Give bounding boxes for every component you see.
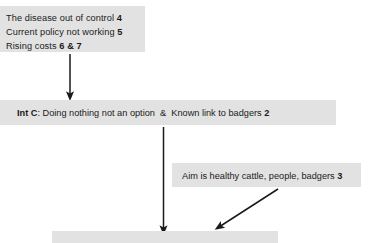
int-c-label: Int C bbox=[17, 108, 37, 118]
problems-line-1-text: The disease out of control bbox=[6, 13, 117, 23]
node-outcome-box bbox=[52, 231, 278, 243]
problems-line-1: The disease out of control 4 bbox=[6, 11, 145, 25]
aim-text: Aim is healthy cattle, people, badgers bbox=[182, 171, 337, 181]
int-c-text-a: Doing nothing not an option bbox=[43, 108, 155, 118]
int-c-ref: 2 bbox=[264, 108, 269, 118]
node-aim-box: Aim is healthy cattle, people, badgers 3 bbox=[172, 163, 361, 187]
aim-ref: 3 bbox=[337, 171, 342, 181]
node-int-c-box: Int C: Doing nothing not an option & Kno… bbox=[0, 100, 336, 125]
node-problems-box: The disease out of control 4 Current pol… bbox=[0, 6, 145, 52]
problems-line-1-ref: 4 bbox=[117, 13, 122, 23]
problems-line-3-text: Rising costs bbox=[6, 41, 59, 51]
problems-line-2-ref: 5 bbox=[117, 27, 122, 37]
problems-line-2: Current policy not working 5 bbox=[6, 25, 145, 39]
arrow-aim-to-outcome bbox=[219, 189, 278, 227]
diagram-canvas: The disease out of control 4 Current pol… bbox=[0, 0, 372, 243]
problems-line-3: Rising costs 6 & 7 bbox=[6, 39, 145, 53]
int-c-text-b: Known link to badgers bbox=[171, 108, 264, 118]
problems-line-3-ref: 6 & 7 bbox=[59, 41, 81, 51]
problems-line-2-text: Current policy not working bbox=[6, 27, 117, 37]
